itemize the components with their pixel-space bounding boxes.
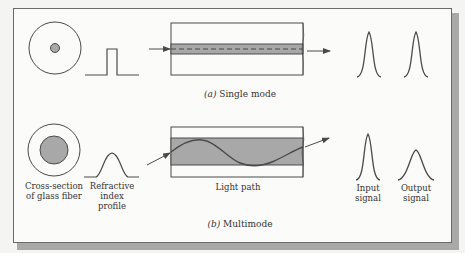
panel-b-multimode <box>28 124 434 180</box>
output-arrow-icon <box>305 138 329 147</box>
label-cross-section-line2: of glass fiber <box>18 191 90 201</box>
label-light-path-text: Light path <box>216 182 261 192</box>
caption-b-letter: (b) <box>207 219 220 229</box>
input-arrow-icon <box>147 153 170 165</box>
label-cross-section-line1: Cross-section <box>18 181 90 191</box>
label-refractive-line1: Refractive <box>84 181 140 191</box>
single-mode-input-pulse-icon <box>357 32 381 77</box>
multimode-cross-section-icon <box>28 124 80 176</box>
label-input-signal: Input signal <box>350 183 386 203</box>
label-light-path: Light path <box>200 182 276 192</box>
multimode-fiber-segment <box>171 127 304 177</box>
single-mode-output-pulse-icon <box>404 32 428 77</box>
caption-b: (b) Multimode <box>180 219 300 229</box>
multimode-input-pulse-icon <box>356 134 380 180</box>
label-input-line1: Input <box>350 183 386 193</box>
label-input-line2: signal <box>350 193 386 203</box>
graded-index-profile-icon <box>84 153 139 177</box>
label-output-line2: signal <box>396 193 436 203</box>
caption-b-text: Multimode <box>223 219 272 229</box>
caption-a-letter: (a) <box>204 89 216 99</box>
panel-a-single-mode <box>29 22 428 77</box>
label-refractive-line3: profile <box>84 201 140 211</box>
label-refractive-line2: index <box>84 191 140 201</box>
single-mode-cross-section-icon <box>29 22 81 74</box>
single-mode-fiber-segment <box>171 23 304 75</box>
caption-a: (a) Single mode <box>180 89 300 99</box>
step-index-profile-icon <box>85 49 139 75</box>
label-cross-section: Cross-section of glass fiber <box>18 181 90 201</box>
label-output-line1: Output <box>396 183 436 193</box>
fiber-diagram <box>0 0 465 253</box>
label-refractive-index: Refractive index profile <box>84 181 140 211</box>
label-output-signal: Output signal <box>396 183 436 203</box>
caption-a-text: Single mode <box>219 89 276 99</box>
multimode-output-pulse-icon <box>398 150 434 180</box>
